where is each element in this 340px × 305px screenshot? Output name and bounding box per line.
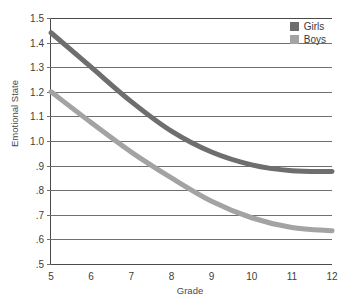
chart-title <box>0 0 340 3</box>
y-axis-tick-label: 1.2 <box>14 86 44 97</box>
x-axis-title: Grade <box>48 285 332 296</box>
y-axis-tick-label: 1.5 <box>14 13 44 24</box>
y-axis-tick-label: .9 <box>14 160 44 171</box>
y-axis-tick-label: 1.3 <box>14 62 44 73</box>
legend-swatch-icon <box>290 35 299 44</box>
y-axis-tick-label: .6 <box>14 234 44 245</box>
y-axis-tick-label: 1.1 <box>14 111 44 122</box>
x-axis-tick-label: 9 <box>209 271 215 282</box>
y-axis-tick-label: 1.4 <box>14 37 44 48</box>
x-axis-tick-label: 11 <box>287 271 297 282</box>
y-axis-tick-label: .8 <box>14 185 44 196</box>
legend-label: Boys <box>304 34 326 45</box>
legend-entry-girls: Girls <box>290 21 326 32</box>
series-line-girls <box>51 33 332 172</box>
x-axis-tick-label: 7 <box>129 271 135 282</box>
gridline <box>51 264 332 265</box>
y-axis-tick-label: 1.0 <box>14 136 44 147</box>
legend-entry-boys: Boys <box>290 34 326 45</box>
y-axis-tick-label: .7 <box>14 209 44 220</box>
x-axis-tick-label: 8 <box>169 271 175 282</box>
legend-label: Girls <box>304 21 325 32</box>
chart-legend: GirlsBoys <box>290 21 326 45</box>
legend-swatch-icon <box>290 22 299 31</box>
series-line-boys <box>51 92 332 231</box>
x-axis-tick-label: 5 <box>48 271 54 282</box>
plot-area: 1.51.41.31.21.11.0.9.8.7.6.5 56789101112… <box>51 18 332 264</box>
x-axis-tick-label: 12 <box>326 271 337 282</box>
x-axis-tick-label: 10 <box>246 271 257 282</box>
chart-figure: Emotional State 1.51.41.31.21.11.0.9.8.7… <box>0 0 340 305</box>
y-axis-tick-label: .5 <box>14 259 44 270</box>
series-curves <box>51 18 332 264</box>
x-axis-tick-label: 6 <box>88 271 94 282</box>
y-axis-tick <box>47 264 51 265</box>
